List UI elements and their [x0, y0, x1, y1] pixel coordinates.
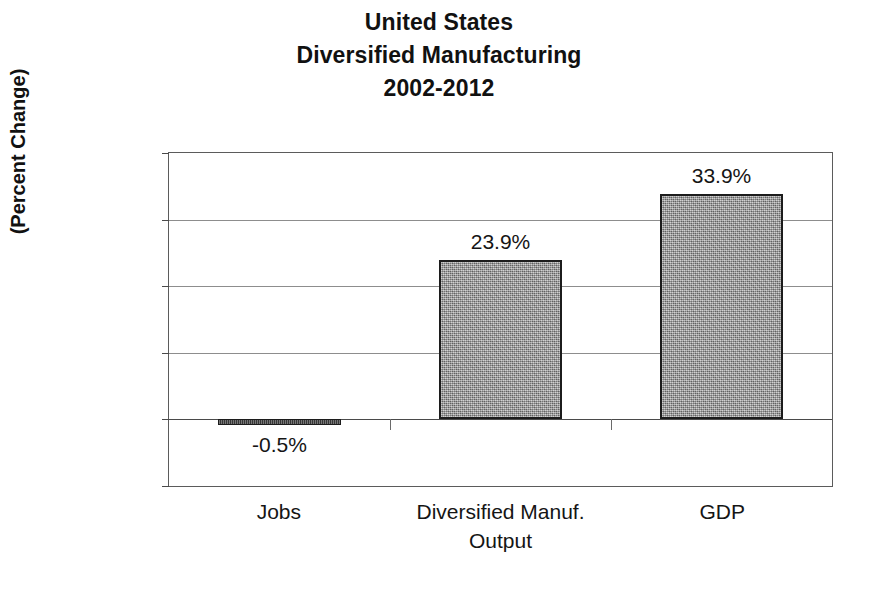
plot-area: 40%30%20%10%0%-10%-0.5%23.9%33.9% — [168, 152, 833, 487]
x-tick-mark-2 — [611, 419, 612, 430]
x-axis-label-gdp: GDP — [611, 497, 833, 577]
chart-title-line-1: United States — [0, 6, 878, 39]
x-axis-label-diversified-manuf-output-line2: Output — [390, 526, 612, 555]
chart-title-line-3: 2002-2012 — [0, 72, 878, 105]
y-tick-mark-0 — [162, 153, 169, 154]
chart-title: United States Diversified Manufacturing … — [0, 6, 878, 105]
bar-gdp — [660, 194, 784, 420]
x-axis-category-labels: Jobs Diversified Manuf. Output GDP — [168, 497, 833, 577]
bar-value-label-jobs: -0.5% — [170, 434, 390, 455]
y-tick-mark-5 — [162, 486, 169, 487]
bar-value-label-diversified-manuf-output: 23.9% — [391, 231, 611, 252]
y-axis-title: (Percent Change) — [7, 0, 30, 392]
bar-jobs — [218, 419, 342, 425]
bar-value-label-gdp: 33.9% — [612, 165, 832, 186]
chart-title-line-2: Diversified Manufacturing — [0, 39, 878, 72]
x-tick-mark-1 — [390, 419, 391, 430]
bar-diversified-manuf-output — [439, 260, 563, 419]
x-axis-label-jobs-line1: Jobs — [257, 500, 301, 523]
y-tick-mark-4 — [162, 419, 169, 420]
y-tick-mark-3 — [162, 353, 169, 354]
x-axis-label-diversified-manuf-output: Diversified Manuf. Output — [390, 497, 612, 577]
x-axis-label-gdp-line1: GDP — [699, 500, 745, 523]
y-tick-mark-1 — [162, 220, 169, 221]
x-axis-label-jobs: Jobs — [168, 497, 390, 577]
x-axis-label-diversified-manuf-output-line1: Diversified Manuf. — [416, 500, 584, 523]
y-tick-mark-2 — [162, 286, 169, 287]
